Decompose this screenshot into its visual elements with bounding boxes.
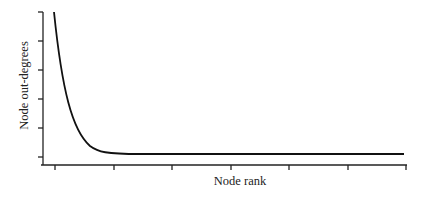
chart-canvas <box>0 0 430 197</box>
y-axis-label: Node out-degrees <box>17 26 32 146</box>
x-axis-label: Node rank <box>190 174 290 189</box>
data-line <box>54 12 404 154</box>
